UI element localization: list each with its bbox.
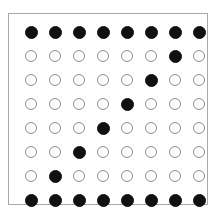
grid-cell <box>91 68 115 92</box>
grid-cell <box>19 92 43 116</box>
grid-cell <box>187 116 211 140</box>
empty-circle-icon <box>145 98 157 110</box>
empty-circle-icon <box>25 122 37 134</box>
grid-cell <box>67 92 91 116</box>
empty-circle-icon <box>193 122 205 134</box>
grid-cell <box>187 68 211 92</box>
grid-cell <box>163 92 187 116</box>
empty-circle-icon <box>121 50 133 62</box>
empty-circle-icon <box>97 74 109 86</box>
filled-circle-icon <box>121 98 134 111</box>
empty-circle-icon <box>73 170 85 182</box>
grid-cell <box>19 188 43 212</box>
grid-cell <box>163 188 187 212</box>
grid-cell <box>187 44 211 68</box>
grid-cell <box>139 188 163 212</box>
grid-cell <box>19 116 43 140</box>
grid-cell <box>139 164 163 188</box>
empty-circle-icon <box>169 170 181 182</box>
grid-cell <box>43 140 67 164</box>
empty-circle-icon <box>49 98 61 110</box>
grid-cell <box>91 140 115 164</box>
grid-cell <box>43 164 67 188</box>
grid-cell <box>139 20 163 44</box>
filled-circle-icon <box>193 26 206 39</box>
filled-circle-icon <box>49 26 62 39</box>
grid-cell <box>115 188 139 212</box>
empty-circle-icon <box>193 146 205 158</box>
filled-circle-icon <box>97 122 110 135</box>
empty-circle-icon <box>97 146 109 158</box>
grid-cell <box>187 164 211 188</box>
empty-circle-icon <box>169 74 181 86</box>
filled-circle-icon <box>169 194 182 207</box>
grid-cell <box>43 92 67 116</box>
empty-circle-icon <box>193 98 205 110</box>
filled-circle-icon <box>49 194 62 207</box>
grid-cell <box>67 188 91 212</box>
empty-circle-icon <box>97 170 109 182</box>
grid-cell <box>163 68 187 92</box>
grid-cell <box>187 92 211 116</box>
grid-cell <box>163 116 187 140</box>
empty-circle-icon <box>25 50 37 62</box>
empty-circle-icon <box>169 146 181 158</box>
filled-circle-icon <box>145 26 158 39</box>
empty-circle-icon <box>121 74 133 86</box>
grid-cell <box>19 68 43 92</box>
grid-cell <box>163 164 187 188</box>
grid-cell <box>43 188 67 212</box>
empty-circle-icon <box>25 170 37 182</box>
grid-cell <box>91 116 115 140</box>
grid-cell <box>115 140 139 164</box>
filled-circle-icon <box>49 170 62 183</box>
grid-cell <box>67 20 91 44</box>
filled-circle-icon <box>97 194 110 207</box>
grid-cell <box>163 140 187 164</box>
filled-circle-icon <box>193 194 206 207</box>
grid-cell <box>115 68 139 92</box>
grid-cell <box>91 92 115 116</box>
filled-circle-icon <box>73 146 86 159</box>
grid-cell <box>115 116 139 140</box>
grid-cell <box>67 140 91 164</box>
grid-cell <box>163 20 187 44</box>
empty-circle-icon <box>97 98 109 110</box>
grid-cell <box>91 44 115 68</box>
grid-cell <box>67 68 91 92</box>
empty-circle-icon <box>25 146 37 158</box>
dot-grid-board <box>8 13 208 205</box>
grid-cell <box>91 164 115 188</box>
grid-cell <box>163 44 187 68</box>
empty-circle-icon <box>49 74 61 86</box>
empty-circle-icon <box>49 122 61 134</box>
filled-circle-icon <box>25 194 38 207</box>
grid-cell <box>67 44 91 68</box>
grid-cell <box>115 44 139 68</box>
grid-cell <box>139 140 163 164</box>
grid-cell <box>19 44 43 68</box>
empty-circle-icon <box>73 98 85 110</box>
dot-grid <box>19 20 211 212</box>
grid-cell <box>139 68 163 92</box>
empty-circle-icon <box>25 98 37 110</box>
grid-cell <box>115 20 139 44</box>
empty-circle-icon <box>97 50 109 62</box>
empty-circle-icon <box>145 170 157 182</box>
filled-circle-icon <box>169 50 182 63</box>
grid-cell <box>91 20 115 44</box>
grid-cell <box>67 116 91 140</box>
grid-cell <box>115 92 139 116</box>
grid-cell <box>139 116 163 140</box>
filled-circle-icon <box>145 194 158 207</box>
empty-circle-icon <box>169 122 181 134</box>
filled-circle-icon <box>25 26 38 39</box>
grid-cell <box>187 188 211 212</box>
empty-circle-icon <box>193 50 205 62</box>
empty-circle-icon <box>121 122 133 134</box>
filled-circle-icon <box>121 194 134 207</box>
empty-circle-icon <box>169 98 181 110</box>
empty-circle-icon <box>73 74 85 86</box>
grid-cell <box>139 44 163 68</box>
empty-circle-icon <box>25 74 37 86</box>
